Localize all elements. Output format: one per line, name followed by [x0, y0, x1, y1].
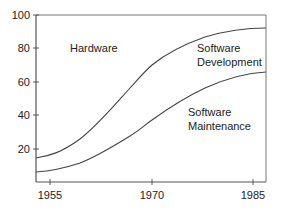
software-development-label-line1: Software	[197, 42, 240, 54]
cost-distribution-chart: 100 80 60 40 20 1955 1970 1985 Hardware …	[0, 0, 283, 211]
software-maintenance-label-line2: Maintenance	[188, 120, 251, 132]
y-tick-labels: 100 80 60 40 20	[12, 9, 30, 155]
x-tick-1970: 1970	[140, 189, 164, 201]
x-tick-1955: 1955	[38, 189, 62, 201]
x-tick-1985: 1985	[241, 189, 265, 201]
plot-frame	[36, 15, 266, 182]
y-tick-80: 80	[18, 42, 30, 54]
software-maintenance-label-line1: Software	[188, 106, 231, 118]
y-tick-60: 60	[18, 76, 30, 88]
y-tick-100: 100	[12, 9, 30, 21]
hardware-region-label: Hardware	[70, 42, 118, 54]
x-tick-labels: 1955 1970 1985	[38, 189, 265, 201]
y-tick-40: 40	[18, 109, 30, 121]
software-development-label-line2: Development	[197, 56, 262, 68]
y-tick-20: 20	[18, 143, 30, 155]
